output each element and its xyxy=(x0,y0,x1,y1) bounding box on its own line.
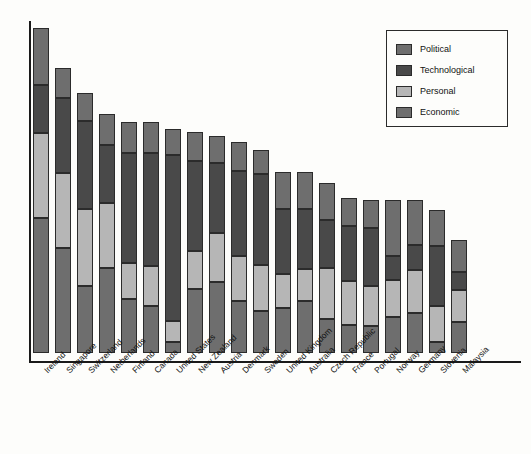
stacked-bar[interactable] xyxy=(143,0,159,362)
stacked-bar[interactable] xyxy=(319,0,335,362)
stacked-bar[interactable] xyxy=(297,0,313,362)
plot-area: IrelandSingaporeSwitzerlandNetherlandsFi… xyxy=(0,0,531,454)
bar-segment-technological[interactable] xyxy=(407,245,423,270)
bar-segment-personal[interactable] xyxy=(55,173,71,248)
stacked-bar[interactable] xyxy=(165,0,181,362)
legend-label: Technological xyxy=(420,65,475,76)
legend-label: Economic xyxy=(420,107,460,118)
bar-segment-personal[interactable] xyxy=(121,263,137,299)
bar-segment-technological[interactable] xyxy=(99,145,115,203)
legend-label: Political xyxy=(420,44,451,55)
stacked-bar[interactable] xyxy=(55,0,71,362)
stacked-bar[interactable] xyxy=(341,0,357,362)
bar-segment-technological[interactable] xyxy=(385,256,401,280)
bar-segment-personal[interactable] xyxy=(33,133,49,218)
bar-segment-political[interactable] xyxy=(55,68,71,98)
bar-segment-technological[interactable] xyxy=(429,246,445,306)
chart-figure: IrelandSingaporeSwitzerlandNetherlandsFi… xyxy=(0,0,531,454)
stacked-bar[interactable] xyxy=(209,0,225,362)
bar-segment-personal[interactable] xyxy=(451,290,467,322)
bar-segment-economic[interactable] xyxy=(231,301,247,353)
bar-segment-technological[interactable] xyxy=(55,98,71,173)
legend: PoliticalTechnologicalPersonalEconomic xyxy=(386,30,508,127)
bar-segment-technological[interactable] xyxy=(33,85,49,133)
bar-segment-political[interactable] xyxy=(385,200,401,256)
bar-segment-technological[interactable] xyxy=(363,228,379,286)
bar-segment-economic[interactable] xyxy=(55,248,71,353)
bar-segment-personal[interactable] xyxy=(77,209,93,286)
bar-segment-political[interactable] xyxy=(429,210,445,246)
bar-segment-technological[interactable] xyxy=(297,209,313,269)
stacked-bar[interactable] xyxy=(33,0,49,362)
bar-segment-technological[interactable] xyxy=(121,153,137,263)
bar-segment-economic[interactable] xyxy=(143,306,159,353)
legend-swatch-icon xyxy=(396,107,412,118)
bar-segment-personal[interactable] xyxy=(341,281,357,325)
bar-segment-political[interactable] xyxy=(363,200,379,228)
legend-item[interactable]: Personal xyxy=(396,83,456,100)
y-axis-line xyxy=(29,21,31,363)
bar-segment-technological[interactable] xyxy=(253,174,269,265)
legend-item[interactable]: Economic xyxy=(396,104,460,121)
legend-item[interactable]: Technological xyxy=(396,62,475,79)
bar-segment-technological[interactable] xyxy=(319,220,335,268)
bar-segment-personal[interactable] xyxy=(319,268,335,319)
bar-segment-personal[interactable] xyxy=(363,286,379,326)
bar-segment-political[interactable] xyxy=(165,129,181,155)
bar-segment-technological[interactable] xyxy=(231,171,247,256)
bar-segment-technological[interactable] xyxy=(275,209,291,274)
bar-segment-personal[interactable] xyxy=(209,233,225,282)
bar-segment-technological[interactable] xyxy=(341,226,357,281)
stacked-bar[interactable] xyxy=(253,0,269,362)
bar-segment-personal[interactable] xyxy=(99,203,115,268)
bar-segment-political[interactable] xyxy=(33,28,49,85)
bar-segment-political[interactable] xyxy=(99,114,115,145)
bar-segment-political[interactable] xyxy=(253,150,269,174)
bar-segment-technological[interactable] xyxy=(187,161,203,251)
bar-segment-technological[interactable] xyxy=(209,163,225,233)
bar-segment-political[interactable] xyxy=(407,200,423,245)
bar-segment-political[interactable] xyxy=(231,142,247,171)
bar-segment-political[interactable] xyxy=(121,122,137,153)
legend-swatch-icon xyxy=(396,44,412,55)
bar-segment-political[interactable] xyxy=(275,172,291,209)
legend-swatch-icon xyxy=(396,65,412,76)
bar-segment-technological[interactable] xyxy=(77,121,93,209)
bar-segment-personal[interactable] xyxy=(385,280,401,317)
bar-segment-political[interactable] xyxy=(319,183,335,220)
bar-segment-personal[interactable] xyxy=(143,266,159,306)
legend-item[interactable]: Political xyxy=(396,41,451,58)
stacked-bar[interactable] xyxy=(187,0,203,362)
stacked-bar[interactable] xyxy=(121,0,137,362)
legend-swatch-icon xyxy=(396,86,412,97)
bar-segment-personal[interactable] xyxy=(429,306,445,342)
bar-segment-technological[interactable] xyxy=(451,272,467,290)
bar-segment-personal[interactable] xyxy=(187,251,203,289)
bar-segment-personal[interactable] xyxy=(253,265,269,311)
bar-segment-political[interactable] xyxy=(209,136,225,163)
bar-segment-personal[interactable] xyxy=(407,270,423,313)
stacked-bar[interactable] xyxy=(231,0,247,362)
bar-segment-personal[interactable] xyxy=(275,274,291,308)
stacked-bar[interactable] xyxy=(275,0,291,362)
stacked-bar[interactable] xyxy=(363,0,379,362)
bar-segment-political[interactable] xyxy=(341,198,357,226)
bar-segment-personal[interactable] xyxy=(165,321,181,342)
bar-segment-economic[interactable] xyxy=(33,218,49,353)
bar-segment-political[interactable] xyxy=(187,132,203,161)
stacked-bar[interactable] xyxy=(77,0,93,362)
bar-segment-political[interactable] xyxy=(143,122,159,153)
stacked-bar[interactable] xyxy=(99,0,115,362)
bar-segment-political[interactable] xyxy=(77,93,93,121)
bar-segment-technological[interactable] xyxy=(165,155,181,321)
legend-label: Personal xyxy=(420,86,456,97)
bar-segment-technological[interactable] xyxy=(143,153,159,266)
bar-segment-political[interactable] xyxy=(297,172,313,209)
bar-segment-political[interactable] xyxy=(451,240,467,272)
bar-segment-personal[interactable] xyxy=(231,256,247,301)
bar-segment-personal[interactable] xyxy=(297,269,313,301)
